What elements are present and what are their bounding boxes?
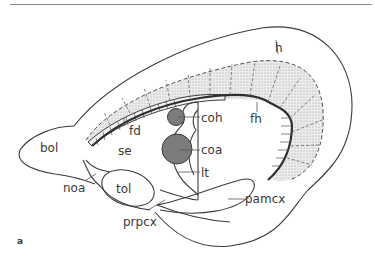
label-pamcx: pamcx — [245, 192, 285, 206]
label-coh: coh — [201, 111, 223, 125]
anterior-commissure — [162, 134, 192, 164]
label-prpcx: prpcx — [123, 215, 157, 229]
piriform-lobe — [157, 179, 254, 213]
panel-label: a — [17, 236, 23, 246]
noa-inner — [86, 160, 110, 172]
olfactory-bulb-outline — [19, 126, 95, 184]
brain-hemisphere-diagram: h fh fd coh coa lt se bol noa tol prpcx … — [0, 0, 375, 262]
label-noa: noa — [63, 181, 85, 195]
label-coa: coa — [201, 143, 222, 157]
label-se: se — [118, 144, 132, 158]
label-bol: bol — [40, 141, 58, 155]
label-fh: fh — [250, 112, 262, 126]
label-h: h — [275, 41, 283, 55]
label-tol: tol — [116, 182, 131, 196]
label-lt: lt — [201, 166, 209, 180]
label-fd: fd — [129, 124, 141, 138]
